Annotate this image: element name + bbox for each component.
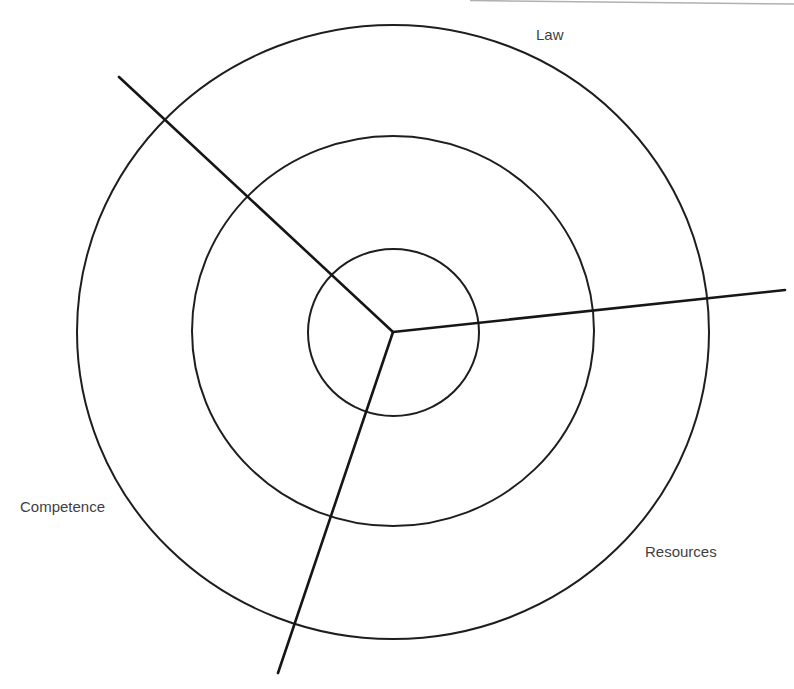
label-resources: Resources	[645, 544, 717, 559]
label-law: Law	[536, 27, 564, 42]
spoke-upper-left	[119, 77, 393, 332]
scan-edge-line	[470, 1, 794, 5]
spoke-right	[393, 290, 785, 332]
concentric-sector-diagram	[0, 0, 794, 689]
label-competence: Competence	[20, 499, 105, 514]
